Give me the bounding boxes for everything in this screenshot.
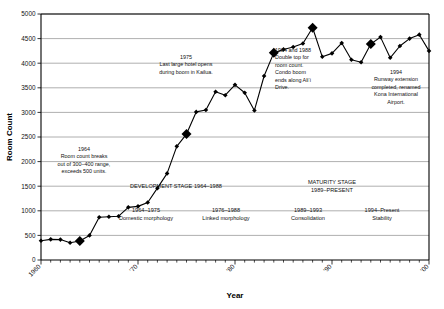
annotation-1984-line-4: ends along Ali‘i [275,77,311,83]
annotation-1984-line-3: Condo boom [275,69,306,75]
data-point-marker-highlighted [182,129,192,139]
annotation-1994-line-2: completed, renamed [371,84,420,90]
data-point-marker [417,32,422,37]
data-point-marker [213,89,218,94]
annotation-1964: 1964 Room count breaks out of 300–400 ra… [32,146,136,176]
annotation-1975: 1975 Last large hotel opens during boom … [131,54,241,76]
y-tick-label: 4000 [21,60,36,67]
annotation-1984-line-5: Drive. [275,84,289,90]
y-tick-label: 1000 [21,207,36,214]
y-axis-title: Room Count [5,113,14,161]
annotation-1975-line-1: Last large hotel opens [159,61,212,67]
x-tick-label: '00 [419,262,430,273]
y-tick-label: 3000 [21,109,36,116]
data-point-marker [97,215,102,220]
data-point-marker [58,237,63,242]
stage-maturity-text: MATURITY STAGE [308,179,356,185]
annotation-1964-year: 1964 [32,146,136,153]
annotation-1964-line-1: Room count breaks [61,153,108,159]
annotation-1984-year: 1984 and 1988 [275,47,351,54]
y-tick-label: 0 [32,256,36,263]
phase-p2-range: 1976–1988 [212,207,240,213]
stage-development-text: DEVELOPMENT STAGE 1964–1988 [130,183,222,189]
stage-label-maturity: MATURITY STAGE 1989–PRESENT [272,179,392,194]
phase-p4-name: Stability [372,215,392,221]
x-tick-label: '90 [322,262,333,273]
annotation-1994-line-4: Airport. [387,99,404,105]
data-point-marker [87,233,92,238]
data-point-marker [427,49,432,54]
y-axis-tick-labels: 0500100015002000250030003500400045005000 [21,10,36,263]
x-tick-label: '70 [128,262,139,273]
phase-label-consolidation: 1989–1993 Consolidation [272,207,344,222]
y-tick-label: 4500 [21,35,36,42]
phase-label-linked-morphology: 1976–1988 Linked morphology [186,207,266,222]
annotation-1964-line-3: exceeds 500 units. [62,168,107,174]
x-axis-tick-labels: 1960'70'80'90'00 [27,262,430,277]
stage-maturity-text-2: 1989–PRESENT [311,187,353,193]
phase-p4-range: 1994–Present [365,207,400,213]
data-point-marker [204,108,209,113]
data-point-marker-highlighted [75,236,85,246]
y-tick-label: 3500 [21,84,36,91]
chart-figure: 0500100015002000250030003500400045005000… [0,0,444,309]
data-point-marker [48,237,53,242]
phase-p2-name: Linked morphology [202,215,249,221]
y-tick-label: 500 [25,232,36,239]
data-point-marker-highlighted [366,39,376,49]
stage-label-development: DEVELOPMENT STAGE 1964–1988 [106,183,246,191]
x-tick-label: '80 [225,262,236,273]
annotation-1984-line-1: Double top for [275,54,309,60]
phase-p3-range: 1989–1993 [294,207,322,213]
y-tick-label: 2500 [21,133,36,140]
data-point-marker [262,74,267,79]
phase-p1-name: Domestic morphology [119,215,173,221]
annotation-1984-1988: 1984 and 1988 Double top for room count.… [275,47,351,91]
data-point-marker-highlighted [308,23,318,33]
y-tick-label: 1500 [21,183,36,190]
data-point-marker [359,60,364,65]
phase-label-domestic-morphology: 1964–1975 Domestic morphology [106,207,186,222]
x-axis-title: Year [227,291,244,300]
phase-p3-name: Consolidation [291,215,325,221]
phase-label-stability: 1994–Present Stability [346,207,418,222]
annotation-1964-line-2: out of 300–400 range, [58,161,111,167]
annotation-1975-line-2: during boom in Kailua. [159,69,213,75]
data-point-marker [194,110,199,115]
annotation-1994: 1994 Runway extension completed, renamed… [352,69,440,106]
phase-p1-range: 1964–1975 [132,207,160,213]
annotation-1994-line-1: Runway extension [374,76,418,82]
data-point-marker [39,239,44,244]
data-point-marker [68,240,73,245]
annotation-1994-line-3: Kona International [374,91,418,97]
x-axis-ticks [41,260,429,265]
x-tick-label: 1960 [27,262,42,277]
annotation-1994-year: 1994 [352,69,440,76]
annotation-1975-year: 1975 [131,54,241,61]
annotation-1984-line-2: room count. [275,62,303,68]
y-tick-label: 5000 [21,10,36,17]
